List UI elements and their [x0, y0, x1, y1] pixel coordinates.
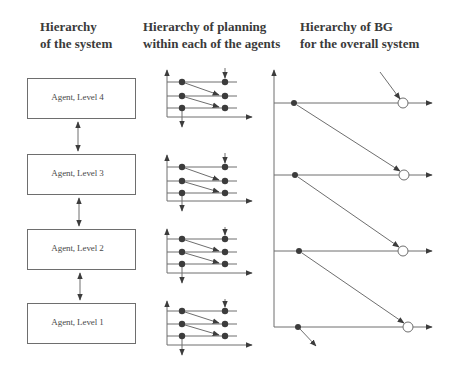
bg-hierarchy-diagram [274, 70, 432, 346]
bg-level-3 [274, 170, 432, 180]
plan-end-dot-icon [222, 79, 228, 85]
planning-diagram-2 [167, 227, 252, 283]
bg-level-1 [274, 322, 432, 332]
plan-transition-arrow-icon [185, 253, 219, 263]
plan-start-dot-icon [179, 93, 185, 99]
planning-diagrams [167, 68, 252, 355]
plan-transition-arrow-icon [185, 312, 219, 323]
plan-start-dot-icon [179, 190, 185, 196]
plan-transition-arrow-icon [185, 240, 219, 251]
plan-start-dot-icon [179, 79, 185, 85]
heading-bg-hierarchy: Hierarchy of BG for the overall system [300, 18, 419, 52]
plan-start-dot-icon [179, 178, 185, 184]
bg-transition-arrow-icon [298, 177, 399, 247]
plan-transition-arrow-icon [185, 97, 219, 107]
bg-transition-arrow-icon [302, 253, 404, 323]
plan-end-dot-icon [222, 164, 228, 170]
agent-box-level-2: Agent, Level 2 [27, 229, 136, 270]
heading-system-line1: Hierarchy [40, 18, 112, 35]
plan-end-dot-icon [222, 236, 228, 242]
bg-goal-circle-icon [398, 98, 408, 108]
plan-start-dot-icon [179, 321, 185, 327]
heading-bg-line2: for the overall system [300, 35, 419, 52]
plan-transition-arrow-icon [185, 83, 219, 95]
bg-goal-circle-icon [398, 246, 408, 256]
plan-start-dot-icon [179, 249, 185, 255]
agent-box-level-3: Agent, Level 3 [27, 154, 136, 195]
plan-start-dot-icon [179, 236, 185, 242]
bg-goal-circle-icon [399, 170, 409, 180]
plan-end-dot-icon [222, 190, 228, 196]
plan-start-dot-icon [179, 105, 185, 111]
planning-diagram-3 [167, 153, 252, 211]
agent-box-level-1: Agent, Level 1 [27, 303, 136, 344]
plan-end-dot-icon [222, 178, 228, 184]
heading-system-hierarchy: Hierarchy of the system [40, 18, 112, 52]
bg-start-dot-icon [292, 172, 298, 178]
agent-label: Agent, Level 4 [28, 92, 135, 102]
plan-start-dot-icon [179, 333, 185, 339]
plan-start-dot-icon [179, 261, 185, 267]
plan-transition-arrow-icon [185, 182, 219, 192]
bg-level-2 [274, 246, 432, 256]
agent-label: Agent, Level 3 [28, 168, 135, 178]
plan-end-dot-icon [222, 321, 228, 327]
planning-diagram-1 [167, 299, 252, 355]
plan-end-dot-icon [222, 93, 228, 99]
bg-start-dot-icon [296, 248, 302, 254]
plan-end-dot-icon [222, 308, 228, 314]
planning-diagram-4 [167, 68, 252, 127]
plan-end-dot-icon [222, 333, 228, 339]
agent-label: Agent, Level 2 [28, 243, 135, 253]
plan-end-dot-icon [222, 261, 228, 267]
plan-transition-arrow-icon [185, 168, 219, 180]
agent-connectors [78, 122, 80, 300]
bg-level-4 [274, 98, 432, 108]
heading-system-line2: of the system [40, 35, 112, 52]
heading-planning-line1: Hierarchy of planning [143, 18, 280, 35]
heading-bg-line1: Hierarchy of BG [300, 18, 419, 35]
bg-outgoing-arrow-icon [300, 329, 316, 346]
plan-end-dot-icon [222, 105, 228, 111]
bg-goal-circle-icon [403, 322, 413, 332]
plan-end-dot-icon [222, 249, 228, 255]
plan-transition-arrow-icon [185, 325, 219, 335]
plan-start-dot-icon [179, 164, 185, 170]
bg-start-dot-icon [295, 324, 301, 330]
bg-start-dot-icon [291, 100, 297, 106]
bg-incoming-arrow-icon [380, 72, 400, 99]
plan-start-dot-icon [179, 308, 185, 314]
bg-transition-arrow-icon [297, 105, 400, 171]
heading-planning-line2: within each of the agents [143, 35, 280, 52]
heading-planning-hierarchy: Hierarchy of planning within each of the… [143, 18, 280, 52]
agent-label: Agent, Level 1 [28, 317, 135, 327]
agent-box-level-4: Agent, Level 4 [27, 78, 136, 119]
